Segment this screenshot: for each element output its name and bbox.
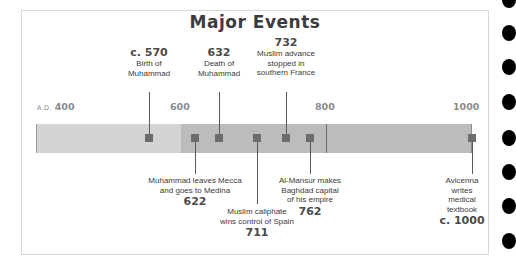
event-text: and goes to Medina [148,186,241,196]
event-text: Al-Mansur makes [279,176,341,186]
event-year: c. 570 [128,46,170,59]
event-year: c. 1000 [439,214,484,227]
leader-711 [257,142,258,204]
axis-label-800: 800 [315,101,335,112]
event-text: wins control of Spain [220,217,294,227]
event-muslim-advance-stopped: 732 Muslim advance stopped in southern F… [257,36,315,78]
event-text: Avicenna [439,176,484,186]
marker-732 [282,134,290,142]
event-year: 632 [198,46,240,59]
event-text: Muhammad leaves Mecca [148,176,241,186]
event-text: Muhammad [198,69,240,79]
binding-dot [502,198,516,214]
event-text: Baghdad capital [279,186,341,196]
event-avicenna-textbook: Avicenna writes medical textbook c. 1000 [439,176,484,227]
event-text: textbook [439,205,484,215]
leader-1000 [472,142,473,174]
leader-570 [149,92,150,134]
marker-570 [145,134,153,142]
event-text: writes [439,186,484,196]
binding-dot [502,130,516,146]
event-birth-of-muhammad: c. 570 Birth of Muhammad [128,46,170,78]
timeline-title: Major Events [0,12,510,32]
timeline-bar-early [36,124,182,153]
leader-632 [219,92,220,134]
event-text: Muhammad [128,69,170,79]
binding-dot [502,59,516,75]
event-text: medical [439,195,484,205]
binding-dot [502,164,516,180]
event-year: 711 [220,226,294,239]
axis-label-400: A.D.400 [37,101,75,112]
leader-732 [286,92,287,134]
binding-dot [502,94,516,110]
event-text: Death of [198,59,240,69]
event-text: Birth of [128,59,170,69]
tick-800 [326,124,327,153]
marker-632 [215,134,223,142]
binding-dot [502,0,516,8]
axis-label-1000: 1000 [453,101,479,112]
leader-622 [195,142,196,174]
event-text: stopped in [257,59,315,69]
event-text: southern France [257,68,315,78]
binding-dot [502,233,516,249]
event-text: of his empire [279,195,341,205]
event-baghdad-capital: Al-Mansur makes Baghdad capital of his e… [279,176,341,218]
marker-622 [191,134,199,142]
axis-label-600: 600 [170,101,190,112]
marker-711 [253,134,261,142]
binding-dot [502,25,516,41]
axis-value: 400 [55,101,75,112]
leader-762 [310,142,311,174]
event-muhammad-leaves-mecca: Muhammad leaves Mecca and goes to Medina… [148,176,241,208]
era-label: A.D. [37,104,52,112]
event-year: 732 [257,36,315,49]
event-year: 762 [279,205,341,218]
marker-1000 [468,134,476,142]
marker-762 [306,134,314,142]
event-death-of-muhammad: 632 Death of Muhammad [198,46,240,78]
event-text: Muslim advance [257,49,315,59]
